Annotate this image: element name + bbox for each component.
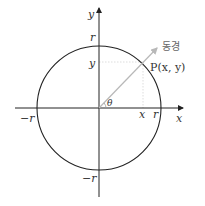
left-intercept-label: −r: [20, 112, 35, 125]
angle-arc: [104, 103, 106, 108]
x-axis-label: x: [176, 112, 183, 125]
right-intercept-label: r: [153, 108, 159, 121]
top-intercept-label: r: [90, 31, 96, 44]
theta-label: θ: [107, 98, 113, 108]
y-projection-label: y: [88, 57, 96, 70]
terminal-ray-label: 동경: [162, 40, 180, 52]
y-axis-label: y: [87, 8, 95, 21]
x-projection-label: x: [139, 108, 146, 121]
point-p-label: P(x, y): [150, 61, 185, 74]
unit-circle-diagram: y x r −r −r r y x θ P(x, y) 동경: [0, 0, 205, 206]
bottom-intercept-label: −r: [82, 172, 97, 185]
